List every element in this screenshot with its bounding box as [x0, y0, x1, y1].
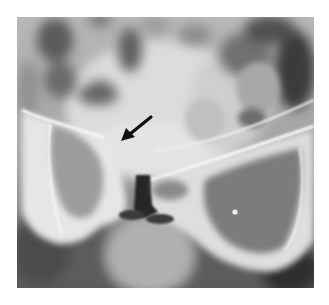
pelvis-radiograph	[17, 17, 314, 288]
xray-figure	[17, 17, 314, 288]
calcification-spot	[232, 209, 237, 214]
